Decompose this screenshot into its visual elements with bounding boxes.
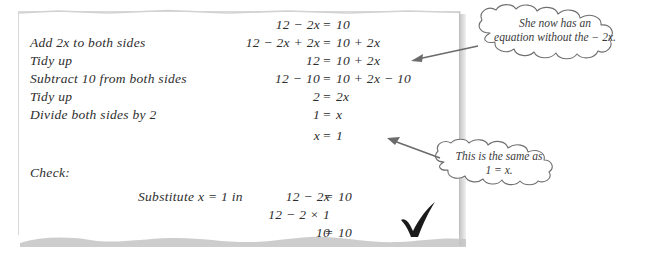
callout-bottom-arrow [0,0,651,264]
